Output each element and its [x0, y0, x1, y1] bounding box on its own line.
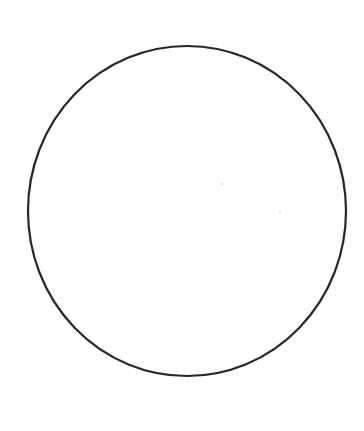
circle-outline: [28, 46, 346, 376]
speck: [221, 183, 223, 185]
circle-diagram: [0, 0, 364, 431]
speck: [279, 211, 281, 213]
scan-specks: [221, 183, 281, 213]
